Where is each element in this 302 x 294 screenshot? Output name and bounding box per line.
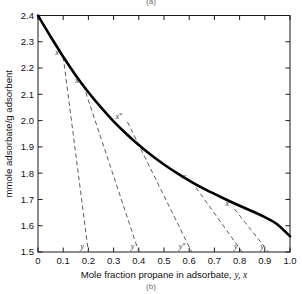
y-tick-label: 1.8 (21, 168, 34, 179)
x-tick-label: 1.0 (283, 255, 296, 266)
curve-point-label: x (225, 199, 230, 208)
y-tick-label: 2.1 (21, 89, 34, 100)
axis-point-label: y (130, 242, 135, 251)
axis-point-label: y (233, 242, 238, 251)
point-labels-group: xyxyx*y*xyxy (54, 48, 264, 251)
axis-point-label: y (260, 242, 265, 251)
x-tick-label: 0.9 (258, 255, 271, 266)
equilibrium-curve-group (38, 16, 290, 237)
x-tick-label: 0.5 (157, 255, 170, 266)
curve-point-label: x (74, 76, 79, 85)
equilibrium-curve (38, 16, 290, 237)
curve-point-label: x* (114, 111, 123, 121)
y-tick-label: 2.3 (21, 36, 34, 47)
y-tick-label: 2.4 (21, 10, 34, 21)
y-tick-label: 1.9 (21, 141, 34, 152)
x-tick-label: 0.1 (57, 255, 70, 266)
axis-titles-group: Mole fraction propane in adsorbate, y, x… (3, 70, 248, 280)
y-axis-title: mmole adsorbate/g adsorbent (3, 70, 14, 198)
y-tick-label: 2.2 (21, 62, 34, 73)
tick-labels-group: 00.10.20.30.40.50.60.70.80.91.01.51.61.7… (21, 10, 297, 266)
x-tick-label: 0.2 (82, 255, 95, 266)
chart-plot-area: 00.10.20.30.40.50.60.70.80.91.01.51.61.7… (0, 0, 302, 294)
y-tick-label: 1.7 (21, 194, 34, 205)
tie-line (83, 85, 138, 252)
x-tick-label: 0 (35, 255, 40, 266)
figure-panel: (a) 00.10.20.30.40.50.60.70.80.91.01.51.… (0, 0, 302, 294)
axis-point-label: y* (178, 241, 187, 251)
x-axis-title: Mole fraction propane in adsorbate, y, x (81, 269, 248, 280)
x-tick-label: 0.8 (233, 255, 246, 266)
x-tick-label: 0.3 (107, 255, 120, 266)
y-tick-label: 1.5 (21, 246, 34, 257)
axes-group (38, 16, 290, 253)
y-tick-label: 2.0 (21, 115, 34, 126)
tie-line (127, 122, 191, 252)
curve-point-label: x (54, 48, 59, 57)
figure-label-b: (b) (0, 282, 302, 291)
curve-point-label: x (182, 172, 187, 181)
tie-lines-group (63, 57, 268, 252)
x-tick-label: 0.6 (183, 255, 196, 266)
x-tick-label: 0.7 (208, 255, 221, 266)
axis-point-label: y (79, 242, 84, 251)
adsorption-equilibrium-chart: 00.10.20.30.40.50.60.70.80.91.01.51.61.7… (0, 0, 302, 294)
plot-frame (38, 16, 290, 253)
y-tick-label: 1.6 (21, 220, 34, 231)
x-tick-label: 0.4 (132, 255, 145, 266)
